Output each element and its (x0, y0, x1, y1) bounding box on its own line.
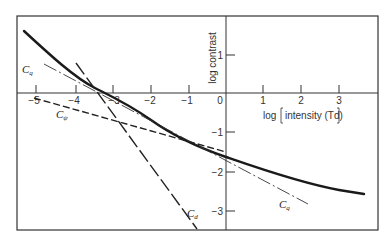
x-tick-label: −1 (181, 95, 193, 106)
plot-frame (17, 16, 378, 230)
y-tick-label: 1 (217, 50, 223, 61)
x-tick-label: 3 (336, 95, 342, 106)
chart: −5 −4 −3 −2 −1 0 1 2 3 1 −1 −2 −3 log co… (0, 0, 392, 244)
x-axis-title-inner: intensity (Td) (285, 110, 343, 121)
y-tick-label: −3 (212, 206, 224, 217)
x-tick-label: 0 (217, 95, 223, 106)
y-ticks (226, 55, 235, 211)
x-tick-label: −2 (144, 95, 156, 106)
cpsi-label: Cψ (56, 108, 68, 122)
x-tick-label: 1 (260, 95, 266, 106)
x-tick-labels: −5 −4 −3 −2 −1 0 1 2 3 (28, 95, 342, 106)
x-ticks (36, 85, 339, 93)
cq-curve (44, 64, 308, 204)
x-axis-title: log intensity (Td) (263, 108, 343, 123)
cd-label: Cd (187, 207, 198, 221)
x-tick-label: −4 (68, 95, 80, 106)
x-tick-label: 2 (298, 95, 304, 106)
cd-curve (76, 63, 197, 229)
y-tick-label: −2 (212, 167, 224, 178)
cq-label-lower: Cq (279, 198, 290, 212)
left-bracket (281, 108, 283, 123)
x-tick-label: −5 (28, 95, 40, 106)
y-tick-label: −1 (212, 127, 224, 138)
cq-label-upper: Cq (22, 63, 33, 77)
y-axis-title: log contrast (207, 32, 218, 84)
x-axis-title-prefix: log (263, 110, 276, 121)
